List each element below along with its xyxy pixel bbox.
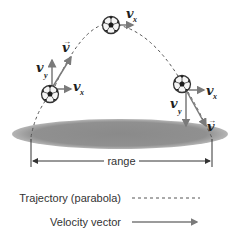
descent-vy-sub: y	[177, 107, 182, 116]
ball-launch-icon	[42, 86, 59, 103]
descent-vx-sub: x	[212, 92, 217, 101]
apex-vx-sub: x	[132, 15, 137, 24]
ball-descent-icon	[174, 76, 191, 93]
launch-vectors	[52, 57, 71, 89]
projectile-diagram: v → v y v x v x v x v y v → range Trajec…	[0, 0, 241, 246]
legend-trajectory-label: Trajectory (parabola)	[19, 192, 121, 204]
descent-vectors	[186, 90, 206, 126]
range-label: range	[107, 155, 135, 167]
legend-velocity-label: Velocity vector	[50, 216, 121, 228]
ground-plane	[12, 119, 228, 149]
launch-vx-sub: x	[79, 88, 84, 97]
descent-v-arrow-glyph: →	[208, 116, 216, 125]
legend: Trajectory (parabola) Velocity vector	[19, 192, 200, 228]
launch-v-arrow	[52, 57, 71, 88]
descent-v-arrow	[186, 90, 206, 126]
launch-vy-label: v	[36, 60, 44, 75]
launch-v-arrow-glyph: →	[63, 37, 71, 46]
launch-vy-sub: y	[43, 71, 48, 80]
descent-vy-label: v	[170, 96, 178, 111]
ball-apex-icon	[103, 17, 120, 34]
